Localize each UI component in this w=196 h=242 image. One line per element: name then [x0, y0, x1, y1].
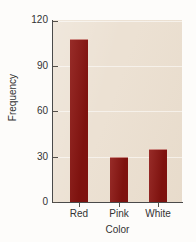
- bar-chart-figure: 0 30 60 90 120 Red Pink White Frequency …: [0, 0, 196, 242]
- y-tick-120: [53, 21, 58, 22]
- y-tick-90: [53, 66, 58, 67]
- x-tick-label-white: White: [138, 209, 178, 219]
- bar-red: [70, 39, 88, 202]
- x-tick-white: [158, 203, 159, 207]
- bar-pink: [110, 157, 128, 202]
- bar-top-highlight: [70, 39, 88, 40]
- y-tick-label-30: 30: [4, 152, 48, 162]
- y-tick-label-120: 120: [4, 15, 48, 25]
- y-tick-label-0: 0: [4, 197, 48, 207]
- x-tick-pink: [119, 203, 120, 207]
- x-axis-title: Color: [52, 224, 183, 235]
- bar-top-highlight: [110, 157, 128, 158]
- x-tick-label-red: Red: [59, 209, 99, 219]
- y-tick-30: [53, 157, 58, 158]
- y-tick-0: [53, 202, 58, 203]
- bar-top-highlight: [149, 149, 167, 150]
- y-axis-title: Frequency: [7, 58, 18, 138]
- y-tick-60: [53, 111, 58, 112]
- x-tick-red: [79, 203, 80, 207]
- bar-white: [149, 149, 167, 202]
- x-tick-label-pink: Pink: [99, 209, 139, 219]
- gridline-120: [53, 21, 182, 22]
- x-axis-line: [52, 202, 183, 203]
